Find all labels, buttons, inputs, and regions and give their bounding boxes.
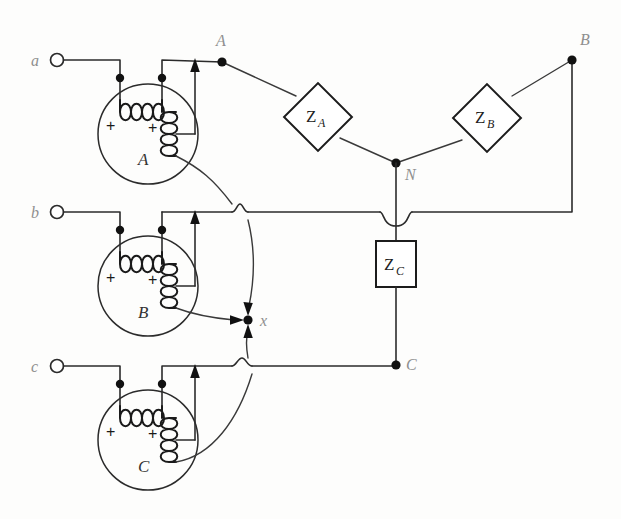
generator-C-label: C [138,457,150,476]
terminal-a-open-circle[interactable] [51,54,64,67]
generator-B-plus-left: + [106,269,115,286]
junction-dot-a-left [116,74,124,82]
generator-A-plus-left: + [106,117,115,134]
impedance-ZA-subscript: A [317,116,326,130]
wire-genA-return-upper [176,156,232,204]
junction-dot-c-left [116,380,124,388]
generator-B-field-coil [120,252,164,272]
node-B-label: B [580,31,590,48]
node-A-label: A [215,32,226,49]
arrow-into-x-top-head [243,302,252,316]
junction-dot-c-right [158,380,166,388]
generator-B-plus-right: + [148,271,157,288]
junction-dot-a-right [158,74,166,82]
wire-genA-return-lower [248,220,253,306]
wire-genA-right-to-nodeA [162,60,222,100]
terminal-b-label: b [31,204,39,221]
arrow-into-x-left-head [230,315,244,325]
node-x-dot [243,315,252,324]
generator-A-field-coil [120,100,164,120]
phase-a-group: a + + A [31,52,222,184]
wire-a-to-genA-left [64,60,121,100]
node-N-label: N [404,166,417,183]
neutral-return-group: x [176,156,267,462]
arrow-genA-up-head [190,58,200,72]
circuit-schematic-svg: a + + A b [0,0,621,519]
node-C-label: C [406,356,417,373]
wire-hop-b-genA [232,204,248,212]
generator-A-plus-right: + [148,119,157,136]
terminal-a-label: a [31,52,39,69]
junction-dot-b-right [158,226,166,234]
generator-B-armature-coil [161,264,178,308]
wire-genC-return-lower [176,374,252,462]
impedance-ZC-symbol: Z [384,255,394,274]
impedance-ZA-symbol: Z [306,107,316,126]
node-C-dot [391,360,400,369]
wire-hop-c-genC [232,358,252,366]
wire-nodeB-to-ZB [512,60,572,96]
wire-ZB-to-N [396,140,462,163]
impedance-ZB-symbol: Z [475,108,485,127]
load-group: Z A Z B N Z C A B C [215,31,590,373]
generator-A-armature-coil [161,112,178,156]
wire-ZA-to-N [340,138,396,163]
generator-B-label: B [138,303,149,322]
junction-dot-b-left [116,226,124,234]
wire-b-to-genB-left [64,212,121,252]
node-A-dot [217,57,226,66]
phase-c-group: c + + C [31,358,396,490]
circuit-diagram-canvas: a + + A b [0,0,621,519]
wire-nodeA-to-ZA [222,62,296,96]
terminal-c-open-circle[interactable] [51,360,64,373]
generator-A-label: A [137,150,149,169]
generator-C-plus-right: + [148,425,157,442]
impedance-ZC-subscript: C [396,264,405,278]
generator-C-plus-left: + [106,423,115,440]
wire-genB-return [176,308,234,320]
generator-C-armature-coil [161,418,178,462]
impedance-ZB-subscript: B [487,117,495,131]
node-x-label: x [259,312,267,329]
terminal-b-open-circle[interactable] [51,206,64,219]
node-B-dot [567,55,576,64]
arrow-into-x-bottom-head [243,324,252,338]
wire-c-to-genC-left [64,366,121,406]
generator-C-field-coil [120,406,164,426]
terminal-c-label: c [31,358,38,375]
